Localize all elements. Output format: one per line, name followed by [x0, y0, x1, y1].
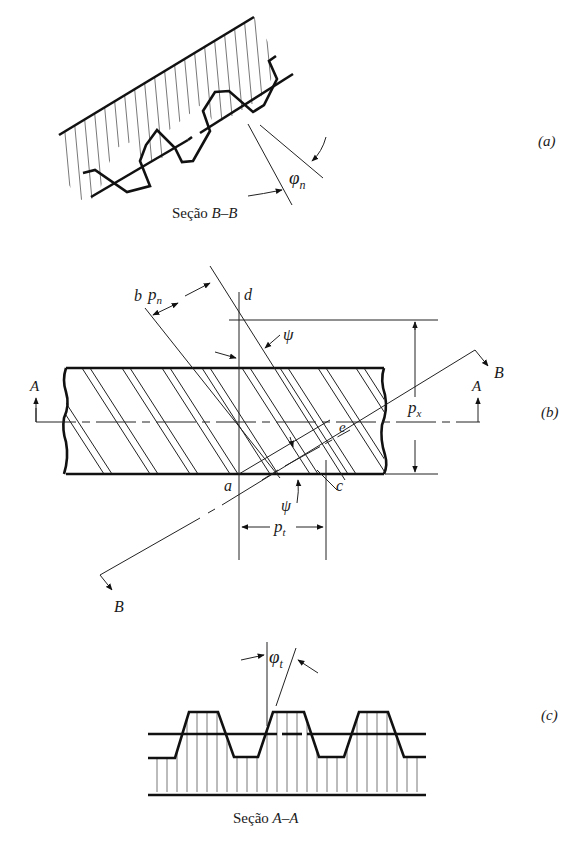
- helical-gear-diagram: φn Seção B–B (a) A A: [0, 0, 583, 845]
- caption-section-b-b: Seção B–B: [172, 205, 237, 221]
- panel-c-section-a-a: φt Seção A–A (c): [148, 642, 558, 826]
- panel-label-c: (c): [541, 707, 558, 724]
- panel-b-helical-gear-top-view: A A pn b d ψ px B B: [29, 266, 559, 615]
- section-b-top-label: B: [494, 364, 504, 381]
- point-c-label: c: [336, 477, 343, 494]
- point-d-label: d: [244, 286, 253, 303]
- p-x-symbol: px: [407, 398, 422, 419]
- caption-section-a-a: Seção A–A: [233, 810, 299, 826]
- p-t-symbol: pt: [273, 517, 287, 538]
- section-a-left-label: A: [29, 378, 40, 394]
- section-hatching: [62, 0, 282, 210]
- psi-bottom-symbol: ψ: [281, 497, 292, 515]
- point-e-label: e: [339, 419, 346, 435]
- panel-label-a: (a): [538, 133, 556, 150]
- section-a-right-label: A: [471, 378, 482, 394]
- p-n-symbol: pn: [147, 285, 163, 306]
- point-a-label: a: [224, 477, 232, 494]
- section-b-bottom-label: B: [114, 598, 124, 615]
- panel-a-section-b-b: φn Seção B–B (a): [59, 0, 556, 221]
- psi-top-symbol: ψ: [283, 325, 294, 344]
- section-hatching: [157, 700, 417, 795]
- panel-label-b: (b): [541, 404, 559, 421]
- helix-tooth-lines: [64, 368, 432, 474]
- phi-t-symbol: φt: [269, 646, 284, 671]
- phi-n-symbol: φn: [289, 167, 306, 192]
- point-b-label: b: [134, 287, 142, 304]
